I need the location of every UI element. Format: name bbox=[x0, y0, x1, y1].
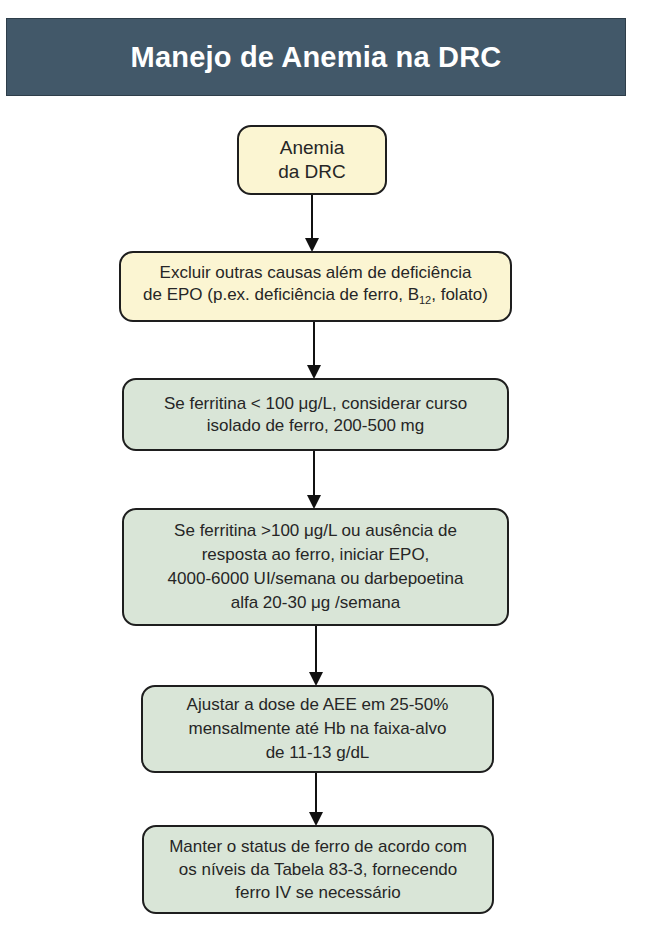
flow-node-start: Anemia da DRC bbox=[237, 125, 387, 195]
node-text: Ajustar a dose de AEE em 25-50% mensalme… bbox=[187, 693, 449, 765]
flow-node-iron: Se ferritina < 100 μg/L, considerar curs… bbox=[122, 378, 509, 451]
arrow-4 bbox=[315, 626, 317, 684]
node-text: Se ferritina < 100 μg/L, considerar curs… bbox=[164, 393, 467, 437]
flow-node-epo: Se ferritina >100 μg/L ou ausência de re… bbox=[122, 508, 509, 626]
page-title: Manejo de Anemia na DRC bbox=[131, 41, 502, 74]
flow-node-maintain: Manter o status de ferro de acordo com o… bbox=[142, 825, 494, 914]
header-banner: Manejo de Anemia na DRC bbox=[6, 18, 626, 96]
arrow-1 bbox=[311, 195, 313, 250]
node-text: Excluir outras causas além de deficiênci… bbox=[143, 262, 488, 311]
node-text: Se ferritina >100 μg/L ou ausência de re… bbox=[168, 519, 464, 615]
node-text: Manter o status de ferro de acordo com o… bbox=[169, 835, 467, 904]
flow-node-adjust: Ajustar a dose de AEE em 25-50% mensalme… bbox=[141, 685, 494, 773]
flow-node-exclude: Excluir outras causas além de deficiênci… bbox=[119, 251, 512, 322]
node-text: Anemia da DRC bbox=[278, 136, 346, 184]
arrow-2 bbox=[313, 322, 315, 377]
arrow-3 bbox=[313, 451, 315, 507]
arrow-5 bbox=[315, 773, 317, 824]
